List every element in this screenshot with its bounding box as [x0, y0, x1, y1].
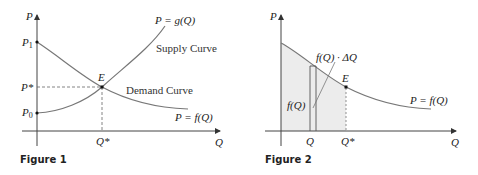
diagram-canvas: P Q P1 P* P0 Q* E P = g(Q) Supply Curve … — [0, 0, 478, 175]
q-label: Q — [306, 135, 314, 147]
demand-equation: P = f(Q) — [409, 94, 448, 107]
supply-equation: P = g(Q) — [154, 14, 196, 27]
figure-1: P Q P1 P* P0 Q* E P = g(Q) Supply Curve … — [20, 10, 223, 165]
y-axis-label: P — [25, 10, 33, 22]
p0-label: P0 — [21, 106, 33, 120]
figure-1-caption: Figure 1 — [20, 154, 67, 165]
supply-curve — [37, 26, 165, 113]
equilibrium-label: E — [341, 72, 349, 84]
demand-equation: P = f(Q) — [174, 111, 213, 124]
y-axis-label: P — [269, 10, 277, 22]
strip-area-label: f(Q) · ΔQ — [316, 51, 357, 64]
p1-point — [35, 40, 38, 43]
height-label: f(Q) — [287, 99, 306, 112]
equilibrium-point — [101, 86, 104, 89]
p1-label: P1 — [21, 36, 33, 50]
equilibrium-label: E — [97, 71, 105, 83]
equilibrium-point — [345, 86, 348, 89]
qstar-label: Q* — [96, 135, 110, 147]
supply-curve-label: Supply Curve — [156, 42, 217, 54]
figure-2: P Q f(Q) · ΔQ E f(Q) P = f(Q) Q Q* Figur… — [265, 10, 459, 165]
x-axis-label: Q — [215, 136, 223, 148]
x-axis-label: Q — [451, 136, 459, 148]
figure-2-caption: Figure 2 — [265, 154, 312, 165]
p0-point — [35, 111, 38, 114]
pstar-label: P* — [20, 81, 34, 93]
qstar-label: Q* — [341, 135, 355, 147]
demand-curve-label: Demand Curve — [126, 84, 193, 96]
